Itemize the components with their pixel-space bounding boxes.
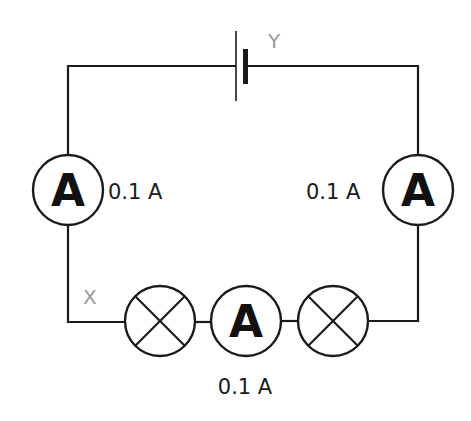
ammeter-left: A bbox=[33, 155, 103, 225]
ammeter-left-reading: 0.1 A bbox=[108, 180, 163, 204]
wire-bottom-right bbox=[368, 226, 418, 321]
lamp-1 bbox=[125, 286, 195, 356]
ammeter-right-symbol: A bbox=[401, 165, 435, 216]
circuit-diagram: Y A 0.1 A A 0.1 A A 0.1 A X bbox=[0, 0, 471, 421]
wire-top-left bbox=[68, 66, 236, 155]
ammeter-bottom-reading: 0.1 A bbox=[218, 375, 273, 399]
ammeter-bottom-symbol: A bbox=[229, 296, 263, 347]
ammeter-right: A bbox=[383, 155, 453, 225]
ammeter-left-symbol: A bbox=[51, 165, 85, 216]
lamp-2 bbox=[298, 286, 368, 356]
cell-symbol bbox=[236, 31, 248, 101]
ammeter-bottom: A bbox=[211, 286, 281, 356]
point-label-y: Y bbox=[267, 29, 281, 53]
cell-short-plate bbox=[243, 49, 248, 84]
ammeter-right-reading: 0.1 A bbox=[306, 180, 361, 204]
wire-top-right bbox=[245, 66, 418, 155]
point-label-x: X bbox=[83, 285, 97, 309]
